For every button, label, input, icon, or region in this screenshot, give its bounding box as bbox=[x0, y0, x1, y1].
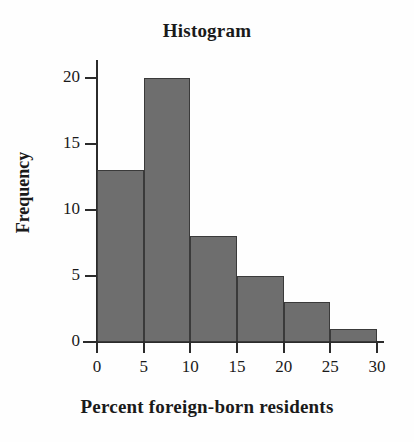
y-axis-tick-label: 0 bbox=[36, 331, 80, 351]
x-axis-tick bbox=[236, 341, 238, 353]
x-axis-tick bbox=[189, 341, 191, 353]
histogram-bar bbox=[284, 302, 331, 342]
y-axis-tick bbox=[85, 275, 97, 277]
y-axis-tick-label: 15 bbox=[36, 133, 80, 153]
histogram-figure: Histogram 05101520 051015202530 Frequenc… bbox=[0, 0, 414, 442]
histogram-bar bbox=[97, 170, 144, 342]
x-axis-tick bbox=[143, 341, 145, 353]
y-axis-tick bbox=[85, 77, 97, 79]
y-axis-tick-label: 5 bbox=[36, 265, 80, 285]
y-axis-title: Frequency bbox=[13, 108, 34, 278]
histogram-bar bbox=[190, 236, 237, 342]
x-axis-tick-label: 0 bbox=[77, 357, 117, 377]
x-axis-tick bbox=[96, 341, 98, 353]
x-axis-tick-label: 15 bbox=[217, 357, 257, 377]
x-axis-tick bbox=[376, 341, 378, 353]
x-axis-tick-label: 5 bbox=[124, 357, 164, 377]
y-axis-tick bbox=[85, 209, 97, 211]
histogram-bar bbox=[144, 78, 191, 342]
x-axis-tick-label: 20 bbox=[264, 357, 304, 377]
y-axis-tick-label: 10 bbox=[36, 199, 80, 219]
x-axis-tick-label: 30 bbox=[357, 357, 397, 377]
x-axis-tick bbox=[283, 341, 285, 353]
histogram-bar bbox=[330, 329, 377, 342]
x-axis-tick-label: 10 bbox=[170, 357, 210, 377]
x-axis-tick bbox=[329, 341, 331, 353]
chart-title: Histogram bbox=[0, 20, 414, 42]
y-axis-tick-label: 20 bbox=[36, 67, 80, 87]
y-axis-tick bbox=[85, 143, 97, 145]
histogram-bar bbox=[237, 276, 284, 342]
x-axis-tick-label: 25 bbox=[310, 357, 350, 377]
x-axis-title: Percent foreign-born residents bbox=[0, 396, 414, 418]
plot-area bbox=[97, 62, 377, 342]
